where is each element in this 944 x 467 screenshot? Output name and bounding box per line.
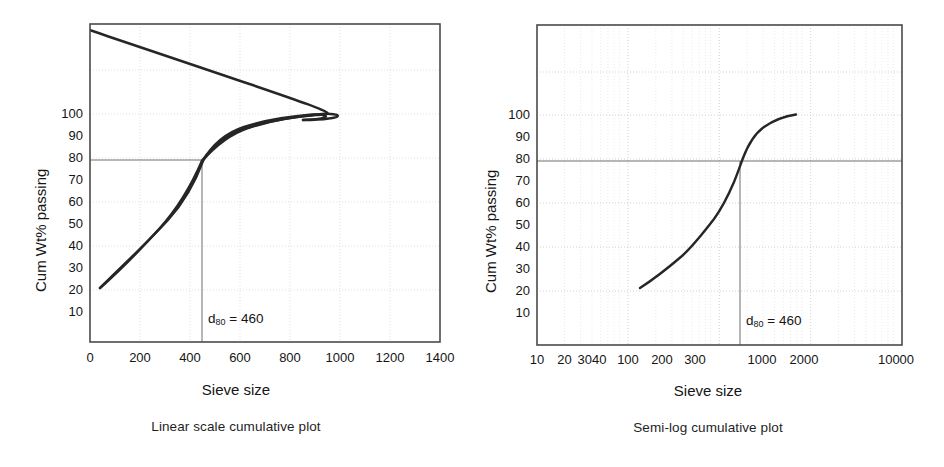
semilog-ytick-80: 80: [497, 151, 530, 166]
semilog-d80-value: = 460: [764, 313, 802, 328]
semilog-xtick-2000: 2000: [780, 352, 828, 367]
linear-xtick-200: 200: [120, 350, 160, 365]
semilog-ytick-100: 100: [497, 107, 530, 122]
semilog-d80-annotation: d80 = 460: [746, 313, 801, 328]
semilog-panel-caption: Semi-log cumulative plot: [472, 420, 944, 435]
linear-xaxis-title: Sieve size: [0, 381, 472, 398]
panel-semilog-scale: 100 90 80 70 60 50 40 30 20 10 10 20 304…: [472, 0, 944, 467]
linear-d80-prefix: d: [208, 311, 216, 326]
semilog-xtick-10000: 10000: [868, 352, 924, 367]
linear-ytick-30: 30: [50, 260, 83, 275]
semilog-ytick-50: 50: [497, 217, 530, 232]
semilog-ytick-30: 30: [497, 261, 530, 276]
semilog-xtick-1000: 1000: [738, 352, 786, 367]
semilog-gridlines-minor: [565, 25, 894, 345]
linear-ytick-70: 70: [50, 172, 83, 187]
semilog-ytick-10: 10: [497, 305, 530, 320]
figure-container: 100 90 80 70 60 50 40 30 20 10 0 200 400…: [0, 0, 944, 467]
linear-xtick-1000: 1000: [320, 350, 360, 365]
linear-ytick-90: 90: [50, 128, 83, 143]
linear-d80-subscript: 80: [216, 317, 226, 327]
linear-ytick-50: 50: [50, 216, 83, 231]
semilog-xtick-300: 300: [675, 352, 715, 367]
semilog-d80-subscript: 80: [754, 319, 764, 329]
linear-ytick-100: 100: [50, 106, 83, 121]
semilog-ytick-70: 70: [497, 173, 530, 188]
linear-ytick-40: 40: [50, 238, 83, 253]
linear-xtick-600: 600: [220, 350, 260, 365]
semilog-yaxis-title: Cum Wt% passing: [482, 170, 499, 293]
linear-xtick-0: 0: [70, 350, 110, 365]
semilog-ytick-40: 40: [497, 239, 530, 254]
linear-ytick-80: 80: [50, 150, 83, 165]
panel-linear-scale: 100 90 80 70 60 50 40 30 20 10 0 200 400…: [0, 0, 472, 467]
linear-d80-annotation: d80 = 460: [208, 311, 263, 326]
semilog-d80-prefix: d: [746, 313, 754, 328]
semilog-ytick-60: 60: [497, 195, 530, 210]
linear-gridlines: [90, 24, 440, 342]
linear-cumulative-curve-main: [100, 114, 326, 288]
linear-plot-frame: [90, 24, 440, 342]
linear-xtick-1400: 1400: [420, 350, 460, 365]
linear-xtick-800: 800: [270, 350, 310, 365]
linear-xtick-1200: 1200: [370, 350, 410, 365]
linear-ytick-20: 20: [50, 282, 83, 297]
semilog-cumulative-curve: [640, 115, 796, 289]
linear-d80-value: = 460: [226, 311, 264, 326]
semilog-xaxis-title: Sieve size: [472, 382, 944, 399]
linear-yaxis-title: Cum Wt% passing: [32, 169, 49, 292]
linear-ytick-60: 60: [50, 194, 83, 209]
semilog-ytick-20: 20: [497, 283, 530, 298]
linear-xtick-400: 400: [170, 350, 210, 365]
semilog-ytick-90: 90: [497, 129, 530, 144]
linear-panel-caption: Linear scale cumulative plot: [0, 419, 472, 434]
linear-ytick-10: 10: [50, 304, 83, 319]
